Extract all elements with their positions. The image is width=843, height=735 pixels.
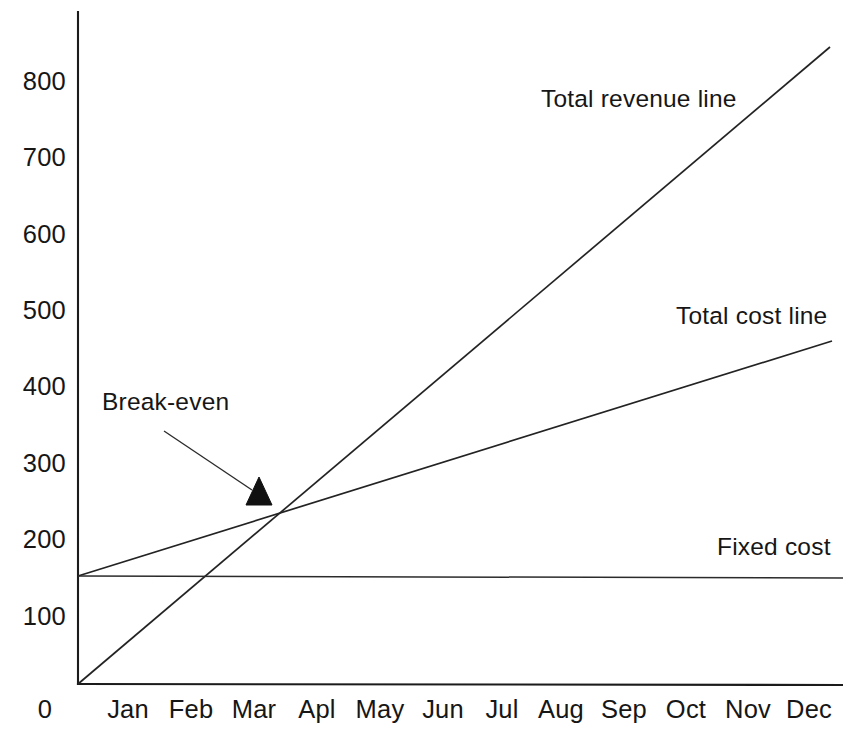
- break-even-annotation-label: Break-even: [102, 390, 229, 415]
- break-even-triangle-marker: [246, 477, 272, 505]
- x-tick-label-apl: Apl: [285, 697, 349, 723]
- x-axis-line: [78, 684, 843, 685]
- y-tick-label-400: 400: [8, 374, 66, 400]
- break-even-leader-line: [164, 431, 252, 490]
- x-tick-label-jul: Jul: [472, 697, 532, 723]
- x-tick-label-may: May: [348, 697, 412, 723]
- y-tick-label-300: 300: [8, 451, 66, 477]
- y-tick-label-100: 100: [8, 604, 66, 630]
- x-tick-label-jan: Jan: [96, 697, 160, 723]
- fixed-cost-line: [78, 576, 843, 578]
- y-tick-label-500: 500: [8, 298, 66, 324]
- x-tick-label-feb: Feb: [159, 697, 223, 723]
- x-tick-label-oct: Oct: [654, 697, 718, 723]
- total-revenue-line-label: Total revenue line: [541, 87, 737, 112]
- y-tick-label-600: 600: [8, 222, 66, 248]
- fixed-cost-line-label: Fixed cost: [717, 535, 831, 560]
- x-tick-label-jun: Jun: [411, 697, 475, 723]
- origin-axis-label: 0: [30, 697, 60, 723]
- x-tick-label-nov: Nov: [715, 697, 781, 723]
- total-revenue-line: [78, 47, 830, 684]
- x-tick-label-mar: Mar: [222, 697, 286, 723]
- y-tick-label-200: 200: [8, 527, 66, 553]
- y-tick-label-800: 800: [8, 69, 66, 95]
- x-tick-label-dec: Dec: [777, 697, 841, 723]
- y-tick-label-700: 700: [8, 145, 66, 171]
- x-tick-label-sep: Sep: [591, 697, 657, 723]
- total-cost-line-label: Total cost line: [676, 304, 827, 329]
- x-tick-label-aug: Aug: [528, 697, 594, 723]
- break-even-chart: 800 700 600 500 400 300 200 100 0 Jan Fe…: [0, 0, 843, 735]
